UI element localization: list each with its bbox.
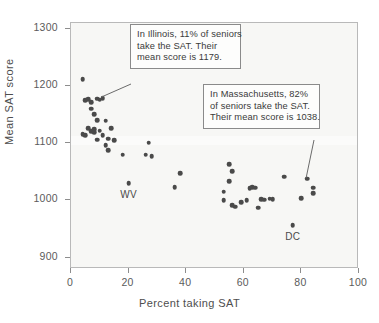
data-point [230,169,235,174]
data-point [256,205,261,210]
data-point [103,119,108,124]
annotation-callout-illinois: In Illinois, 11% of seniors take the SAT… [130,24,241,69]
x-tick-label: 100 [349,276,367,288]
data-point [144,152,149,157]
x-tick-mark [70,268,71,273]
data-point [92,112,97,117]
data-point [178,171,183,176]
point-label-dc: DC [285,231,300,242]
data-point [221,198,226,203]
data-point [121,152,126,157]
data-point [299,196,304,201]
y-tick-mark [65,85,70,86]
x-tick-label: 0 [67,276,73,288]
data-point [227,162,232,167]
data-point [100,96,105,101]
data-point [290,223,295,228]
y-tick-mark [65,142,70,143]
callout-illinois-line-2: take the SAT. Their [137,41,235,53]
data-point [253,185,258,190]
x-tick-mark [128,268,129,273]
y-tick-mark [65,199,70,200]
data-point [106,148,111,153]
data-point [227,179,232,184]
data-point [126,181,131,186]
y-tick-mark [65,28,70,29]
data-point [221,189,226,194]
data-point [95,118,100,123]
y-tick-label: 900 [0,250,58,262]
data-point [244,198,249,203]
data-point [109,126,114,131]
data-point [146,140,151,145]
data-point [149,154,154,159]
data-point [89,100,94,105]
data-point [172,185,177,190]
y-tick-label: 1000 [0,192,58,204]
sat-scatter-figure: WVDC 9001000110012001300 020406080100 Me… [0,0,379,323]
data-point [282,175,287,180]
data-point [262,197,267,202]
x-tick-mark [300,268,301,273]
data-point [89,107,94,112]
data-point [270,197,275,202]
data-point [311,185,316,190]
x-tick-label: 20 [121,276,133,288]
data-point [80,77,85,82]
data-point [83,133,88,138]
x-axis-title: Percent taking SAT [0,297,379,309]
data-point [239,200,244,205]
data-point [305,176,310,181]
callout-massachusetts-line-3: Their mean score is 1038. [210,112,314,124]
data-point [112,138,117,143]
callout-massachusetts-line-1: In Massachusetts, 82% [210,89,314,101]
x-tick-label: 80 [294,276,306,288]
data-point [92,130,97,135]
x-tick-label: 60 [237,276,249,288]
y-tick-mark [65,257,70,258]
annotation-callout-massachusetts: In Massachusetts, 82% of seniors take th… [203,84,320,129]
point-label-wv: WV [120,189,137,200]
callout-illinois-line-1: In Illinois, 11% of seniors [137,29,235,41]
x-tick-mark [185,268,186,273]
data-point [95,137,100,142]
data-point [311,191,316,196]
x-tick-mark [243,268,244,273]
data-point [100,133,105,138]
y-tick-label: 1300 [0,21,58,33]
callout-illinois-line-3: mean score is 1179. [137,52,235,64]
data-point [106,136,111,141]
data-point [233,204,238,209]
x-tick-mark [358,268,359,273]
y-axis-title: Mean SAT score [3,58,15,145]
callout-massachusetts-line-2: of seniors take the SAT. [210,101,314,113]
x-tick-label: 40 [179,276,191,288]
